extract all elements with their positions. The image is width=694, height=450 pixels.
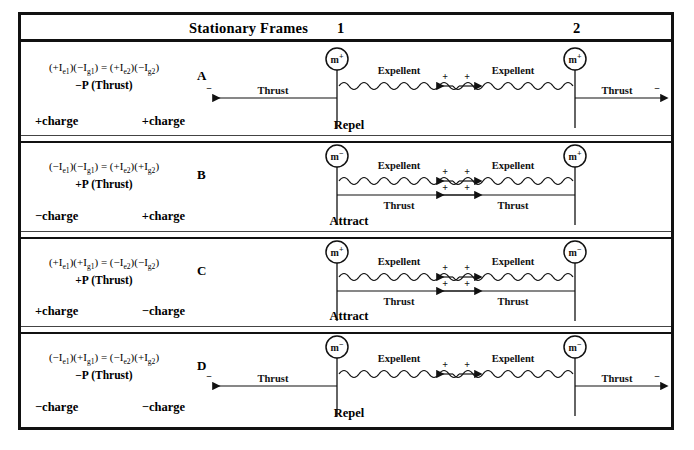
mass-label-right: m+: [569, 149, 582, 162]
equation-block-c: (+Ie1)(+Ig1) = (−Ie2)(−Ig2) +P (Thrust): [29, 255, 179, 289]
header-frame-2: 2: [573, 20, 580, 37]
momentum-b: +P (Thrust): [29, 177, 179, 193]
diagram-d: m− m− Thrust − Expellent + Expellent +: [191, 332, 671, 427]
table-row: (+Ie1)(−Ig1) = (+Ie2)(−Ig2) −P (Thrust) …: [21, 42, 671, 141]
expellent-sign-right: +: [442, 71, 448, 82]
equation-b: (−Ie1)(−Ig1) = (+Ie2)(+Ig2): [29, 159, 179, 176]
equation-block-d: (−Ie1)(+Ig1) = (−Ie2)(+Ig2) −P (Thrust): [29, 350, 179, 384]
mass-label-left: m+: [331, 52, 344, 65]
expellent-sign-right: +: [442, 359, 448, 370]
momentum-a: −P (Thrust): [29, 78, 179, 94]
thrust-sign-left: −: [206, 83, 212, 94]
thrust-sign-right: −: [654, 371, 660, 382]
expellent-sign-left: +: [464, 71, 470, 82]
diagram-a: m+ m+ Thrust − Expellent +: [191, 42, 671, 141]
diagram-page: Stationary Frames 1 2 (+Ie1)(−Ig1) = (+I…: [0, 0, 694, 450]
header-title: Stationary Frames: [189, 20, 308, 37]
table-row: (−Ie1)(+Ig1) = (−Ie2)(+Ig2) −P (Thrust) …: [21, 332, 671, 427]
thrust-label-left: Thrust: [258, 85, 289, 96]
thrust-label-right: Thrust: [498, 296, 529, 307]
thrust-sign-left: −: [206, 371, 212, 382]
thrust-label-right: Thrust: [602, 85, 633, 96]
mass-label-right: m+: [569, 52, 582, 65]
equation-c: (+Ie1)(+Ig1) = (−Ie2)(−Ig2): [29, 255, 179, 272]
momentum-d: −P (Thrust): [29, 368, 179, 384]
mass-label-left: m−: [331, 149, 344, 162]
expellent-label-right: Expellent: [492, 353, 535, 364]
table-row: (+Ie1)(+Ig1) = (−Ie2)(−Ig2) +P (Thrust) …: [21, 237, 671, 332]
mass-label-left: m−: [331, 340, 344, 353]
table-row: (−Ie1)(−Ig1) = (+Ie2)(+Ig2) +P (Thrust) …: [21, 141, 671, 237]
equation-block-a: (+Ie1)(−Ig1) = (+Ie2)(−Ig2) −P (Thrust): [29, 60, 179, 94]
thrust-label-left: Thrust: [384, 296, 415, 307]
expellent-sign-left: +: [464, 262, 470, 273]
mass-label-right: m−: [569, 340, 582, 353]
diagram-b: m− m+ Expellent + Expellent +: [191, 141, 671, 237]
equation-block-b: (−Ie1)(−Ig1) = (+Ie2)(+Ig2) +P (Thrust): [29, 159, 179, 193]
expellent-sign-right: +: [442, 262, 448, 273]
expellent-sign-left: +: [464, 359, 470, 370]
thrust-sign-right: +: [442, 278, 448, 289]
expellent-label-right: Expellent: [492, 160, 535, 171]
table-body: (+Ie1)(−Ig1) = (+Ie2)(−Ig2) −P (Thrust) …: [21, 15, 671, 427]
thrust-sign-left: +: [464, 278, 470, 289]
equation-d: (−Ie1)(+Ig1) = (−Ie2)(+Ig2): [29, 350, 179, 367]
thrust-sign-left: +: [464, 182, 470, 193]
header-frame-1: 1: [337, 20, 344, 37]
momentum-c: +P (Thrust): [29, 273, 179, 289]
expellent-label-right: Expellent: [492, 65, 535, 76]
expellent-label-left: Expellent: [378, 65, 421, 76]
expellent-label-right: Expellent: [492, 256, 535, 267]
thrust-label-right: Thrust: [602, 373, 633, 384]
thrust-label-left: Thrust: [384, 200, 415, 211]
mass-label-right: m−: [569, 245, 582, 258]
expellent-label-left: Expellent: [378, 353, 421, 364]
expellent-label-left: Expellent: [378, 256, 421, 267]
expellent-label-left: Expellent: [378, 160, 421, 171]
diagram-c: m+ m− Expellent + Expellent + Thrust +: [191, 237, 671, 332]
thrust-sign-right: +: [442, 182, 448, 193]
expellent-sign-right: +: [442, 166, 448, 177]
header-band: Stationary Frames 1 2: [18, 12, 674, 42]
expellent-sign-left: +: [464, 166, 470, 177]
thrust-sign-right: −: [654, 83, 660, 94]
thrust-label-left: Thrust: [258, 373, 289, 384]
equation-a: (+Ie1)(−Ig1) = (+Ie2)(−Ig2): [29, 60, 179, 77]
mass-label-left: m+: [331, 245, 344, 258]
thrust-label-right: Thrust: [498, 200, 529, 211]
